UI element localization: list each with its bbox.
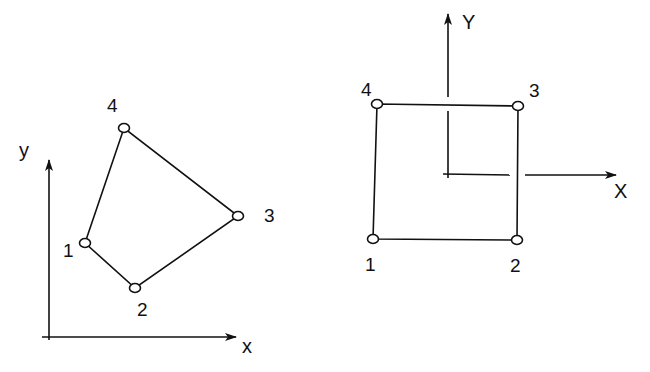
right-square xyxy=(373,104,518,240)
right-node-3-label: 3 xyxy=(529,81,540,100)
diagram-canvas xyxy=(0,0,650,372)
quad-element-outline xyxy=(85,128,238,288)
left-quadrilateral xyxy=(80,124,244,293)
left-node-1-label: 1 xyxy=(63,241,74,260)
right-node-2-label: 2 xyxy=(510,256,521,275)
node-4-marker xyxy=(372,100,383,109)
node-2-marker xyxy=(512,236,523,245)
right-node-4-label: 4 xyxy=(361,80,372,99)
right-y-axis-label: Y xyxy=(462,12,475,32)
node-3-marker xyxy=(233,212,244,221)
right-nodes xyxy=(368,100,524,245)
square-element-outline xyxy=(373,104,518,240)
left-y-axis-label: y xyxy=(19,140,29,160)
node-4-marker xyxy=(119,124,130,133)
node-1-marker xyxy=(368,235,379,244)
node-1-marker xyxy=(80,239,91,248)
left-node-2-label: 2 xyxy=(137,300,148,319)
left-x-axis-label: x xyxy=(242,336,252,356)
right-x-axis-inner xyxy=(443,174,510,175)
left-node-4-label: 4 xyxy=(107,96,118,115)
left-node-3-label: 3 xyxy=(264,206,275,225)
right-node-1-label: 1 xyxy=(365,255,376,274)
node-2-marker xyxy=(130,284,141,293)
node-3-marker xyxy=(513,102,524,111)
right-x-axis-label: X xyxy=(614,181,627,201)
